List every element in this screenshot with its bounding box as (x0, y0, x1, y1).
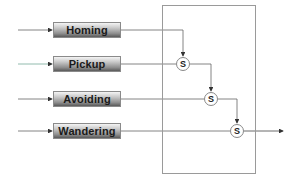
behavior-pickup: Pickup (53, 56, 121, 72)
behavior-wandering: Wandering (53, 123, 121, 139)
behavior-label: Homing (66, 24, 108, 36)
behavior-label: Pickup (69, 58, 106, 70)
wiring (0, 0, 302, 186)
behavior-avoiding: Avoiding (53, 91, 121, 107)
behavior-homing: Homing (53, 22, 121, 38)
suppressor-label: S (234, 127, 240, 136)
suppressor-node-2: S (204, 92, 218, 106)
behavior-label: Wandering (58, 125, 115, 137)
behavior-label: Avoiding (63, 93, 110, 105)
suppressor-label: S (180, 60, 186, 69)
suppressor-node-3: S (230, 124, 244, 138)
suppressor-label: S (208, 95, 214, 104)
arbitration-box (162, 5, 256, 174)
suppressor-node-1: S (176, 57, 190, 71)
